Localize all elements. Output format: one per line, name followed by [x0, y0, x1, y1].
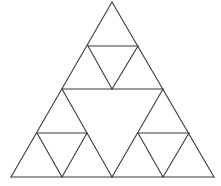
triangle-edge: [138, 133, 163, 177]
triangle-edge: [88, 46, 112, 89]
triangle-edges: [11, 2, 214, 177]
sierpinski-diagram: [0, 0, 221, 186]
triangle-edge: [163, 133, 189, 177]
triangle-edge: [37, 133, 62, 177]
triangle-edge: [112, 46, 138, 89]
triangle-edge: [62, 133, 87, 177]
sierpinski-triangle-figure: [0, 0, 221, 186]
